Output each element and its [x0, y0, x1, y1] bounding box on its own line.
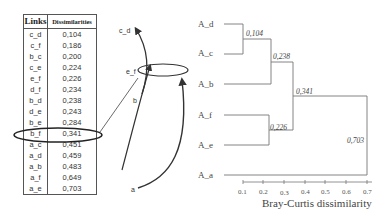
ef-ellipse	[138, 64, 188, 76]
label-cd: c_d	[119, 27, 130, 35]
merge-height: 0,703	[347, 136, 364, 145]
tick-label: 0.3	[280, 189, 289, 197]
dendrogram: A_d A_c A_b A_f A_e A_a 0,104 0,238 0,22…	[198, 19, 372, 209]
merge-height: 0,341	[296, 87, 313, 96]
leaf-label: A_f	[198, 110, 212, 120]
label-b: b	[133, 97, 137, 104]
tick-label: 0.4	[301, 188, 310, 196]
leaf-label: A_c	[198, 48, 213, 58]
diagram-overlay: c_d e_f b a A_d A_c A_b A_f A_e A_a 0,10…	[0, 0, 392, 219]
merge-height: 0,226	[270, 123, 287, 132]
leaf-label: A_a	[198, 170, 213, 180]
tick-label: 0.5	[321, 188, 330, 196]
tick-label: 0.6	[342, 188, 351, 196]
line-b	[122, 66, 150, 170]
x-axis: 0.1 0.2 0.3 0.4 0.5 0.6 0.7 Bray-Curtis …	[238, 180, 372, 209]
dendrogram-branches	[224, 24, 367, 175]
merge-height: 0,104	[246, 29, 263, 38]
arrow-from-a	[138, 80, 184, 188]
leaf-label: A_b	[198, 79, 214, 89]
tick-label: 0.1	[238, 188, 247, 196]
merge-height: 0,238	[273, 52, 290, 61]
x-axis-label: Bray-Curtis dissimilarity	[262, 197, 372, 209]
label-a: a	[131, 186, 135, 193]
tick-label: 0.7	[363, 188, 372, 196]
label-ef: e_f	[126, 68, 136, 76]
highlight-ellipse-bf	[14, 128, 102, 142]
leaf-label: A_e	[198, 140, 213, 150]
connector-line	[100, 78, 138, 132]
leaf-label: A_d	[198, 19, 214, 29]
tick-label: 0.2	[259, 188, 268, 196]
